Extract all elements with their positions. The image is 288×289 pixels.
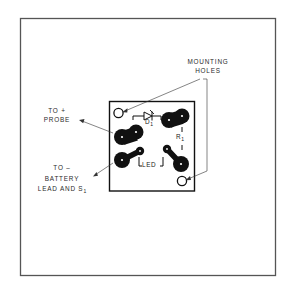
label-to-minus-battery-line3: LEAD AND S1 xyxy=(24,184,100,197)
label-to-minus-battery-line2: BATTERY xyxy=(24,174,100,185)
label-led-text: LED xyxy=(142,161,156,168)
label-to-plus-probe-line2: PROBE xyxy=(34,116,80,125)
label-r1-subscript: 1 xyxy=(181,136,184,142)
label-mounting-holes: MOUNTING HOLES xyxy=(172,58,244,75)
label-led: LED xyxy=(142,161,156,168)
label-d1: D1 xyxy=(145,118,153,127)
label-d1-subscript: 1 xyxy=(150,121,153,127)
label-r1: R1 xyxy=(176,133,184,142)
label-s1-subscript: 1 xyxy=(83,188,86,194)
label-mounting-holes-line1: MOUNTING xyxy=(172,58,244,67)
label-to-minus-battery-line1: TO – xyxy=(24,163,100,174)
label-to-minus-battery-text: LEAD AND S xyxy=(38,185,84,192)
label-to-minus-battery: TO – BATTERY LEAD AND S1 xyxy=(24,163,100,197)
label-mounting-holes-line2: HOLES xyxy=(172,67,244,76)
label-to-plus-probe-line1: TO + xyxy=(34,107,80,116)
pcb-layout-figure: MOUNTING HOLES TO + PROBE TO – BATTERY L… xyxy=(0,0,288,289)
label-to-plus-probe: TO + PROBE xyxy=(34,107,80,124)
pcb-drawing xyxy=(0,0,288,289)
